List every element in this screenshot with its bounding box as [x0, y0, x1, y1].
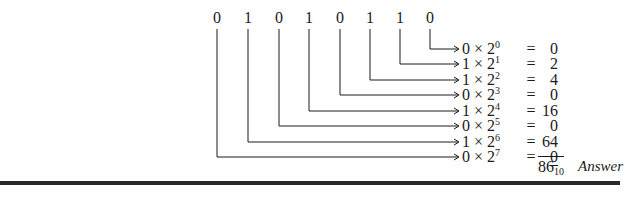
row-power: 0: [495, 39, 500, 50]
connector-line: [217, 29, 458, 157]
row-expression: 0 × 27: [462, 149, 524, 165]
bottom-rule: [0, 181, 620, 185]
conversion-row: 0 × 25=0: [462, 118, 558, 134]
connector-line: [430, 29, 458, 49]
row-bit: 0: [462, 148, 470, 165]
result-sum: 8610: [538, 156, 564, 177]
row-value: 0: [538, 87, 558, 103]
row-expression: 1 × 21: [462, 56, 524, 72]
conversion-row: 0 × 23=0: [462, 87, 558, 103]
row-power: 6: [495, 132, 500, 143]
row-base: 2: [487, 55, 495, 72]
row-power: 1: [495, 54, 500, 65]
times-symbol: ×: [474, 86, 483, 103]
times-symbol: ×: [474, 117, 483, 134]
row-expression: 0 × 23: [462, 87, 524, 103]
equals-sign: =: [524, 87, 538, 103]
row-base: 2: [487, 86, 495, 103]
times-symbol: ×: [474, 148, 483, 165]
times-symbol: ×: [474, 55, 483, 72]
row-power: 2: [495, 70, 500, 81]
row-power: 4: [495, 101, 500, 112]
result-value: 86: [538, 158, 554, 175]
connector-line: [309, 29, 458, 111]
row-value: 0: [538, 118, 558, 134]
equals-sign: =: [524, 56, 538, 72]
connector-line: [340, 29, 458, 95]
row-base: 2: [487, 117, 495, 134]
row-power: 5: [495, 116, 500, 127]
equals-sign: =: [524, 149, 538, 165]
row-bit: 0: [462, 117, 470, 134]
conversion-row: 1 × 21=2: [462, 56, 558, 72]
row-value: 2: [538, 56, 558, 72]
row-bit: 1: [462, 55, 470, 72]
row-base: 2: [487, 148, 495, 165]
row-power: 7: [495, 147, 500, 158]
row-expression: 0 × 25: [462, 118, 524, 134]
connector-line: [370, 29, 458, 80]
answer-label: Answer: [578, 158, 623, 175]
row-power: 3: [495, 85, 500, 96]
connector-line: [400, 29, 458, 64]
equals-sign: =: [524, 118, 538, 134]
row-bit: 0: [462, 86, 470, 103]
result-base: 10: [554, 166, 564, 177]
